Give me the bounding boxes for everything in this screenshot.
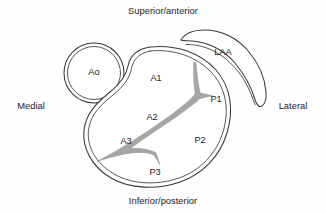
scallop-label-p2: P2	[194, 135, 205, 145]
scallop-label-p3: P3	[149, 167, 160, 177]
orientation-label-inferior: Inferior/posterior	[129, 195, 197, 206]
orientation-label-lateral: Lateral	[279, 100, 308, 111]
orientation-label-medial: Medial	[17, 100, 45, 111]
aorta-label: Ao	[88, 66, 99, 77]
diagram-canvas: Superior/anterior Inferior/posterior Med…	[0, 0, 326, 213]
scallop-label-a2: A2	[146, 112, 157, 122]
mitral-valve-diagram: Superior/anterior Inferior/posterior Med…	[0, 0, 326, 213]
scallop-label-a1: A1	[150, 73, 161, 83]
laa-label: LAA	[214, 46, 232, 57]
orientation-label-superior: Superior/anterior	[128, 5, 198, 16]
scallop-label-p1: P1	[210, 94, 221, 104]
scallop-label-a3: A3	[120, 136, 131, 146]
